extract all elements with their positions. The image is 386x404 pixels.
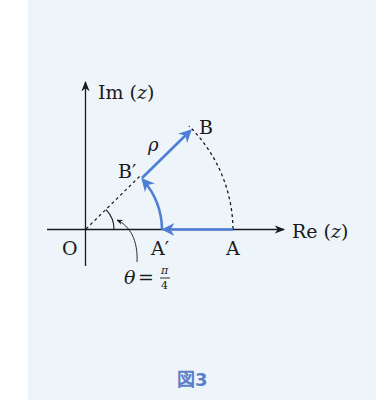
theta-symbol: θ <box>124 266 136 288</box>
origin-label: O <box>62 237 78 259</box>
point-label-a: A <box>225 237 240 259</box>
pi-numerator: π <box>160 264 169 277</box>
point-label-b-prime: B′ <box>118 160 136 182</box>
complex-plane-diagram: Im (z) Re (z) O A′ A B B′ ρ θ = π 4 図3 <box>0 0 386 404</box>
x-axis-label: Re (z) <box>292 220 348 242</box>
point-label-b: B <box>199 116 213 138</box>
figure-caption: 図3 <box>177 369 208 390</box>
angle-arc <box>106 210 114 230</box>
theta-pointer-arrow <box>117 220 137 262</box>
path-arc-A-prime-to-B-prime <box>143 180 162 230</box>
dotted-arc-A-to-B <box>189 126 233 229</box>
rho-label: ρ <box>147 134 159 155</box>
four-denominator: 4 <box>161 279 168 292</box>
equals-sign: = <box>138 266 154 288</box>
point-label-a-prime: A′ <box>150 237 169 259</box>
y-axis-label: Im (z) <box>98 81 154 103</box>
